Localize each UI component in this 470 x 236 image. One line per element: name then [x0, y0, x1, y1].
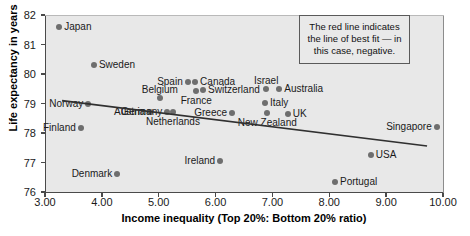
y-tick-label: 80: [8, 69, 36, 79]
y-tick-label: 78: [8, 128, 36, 138]
x-tick-label: 10.00: [429, 196, 457, 208]
y-tick-label: 79: [8, 99, 36, 109]
x-tick-mark: [101, 193, 103, 197]
x-tick-mark: [442, 193, 444, 197]
x-tick-mark: [385, 193, 387, 197]
x-tick-mark: [44, 193, 46, 197]
y-tick-label: 76: [8, 187, 36, 197]
x-axis-title: Income inequality (Top 20%: Bottom 20% r…: [45, 212, 443, 224]
x-tick-mark: [329, 193, 331, 197]
x-tick-label: 7.00: [262, 196, 283, 208]
y-tick-label: 81: [8, 40, 36, 50]
x-tick-label: 8.00: [319, 196, 340, 208]
plot-right-border: [443, 15, 444, 193]
x-tick-label: 9.00: [375, 196, 396, 208]
y-tick-label: 82: [8, 10, 36, 20]
x-tick-mark: [215, 193, 217, 197]
x-tick-label: 6.00: [205, 196, 226, 208]
x-tick-label: 3.00: [34, 196, 55, 208]
scatter-chart-figure: Life expectancy in years 76777879808182 …: [0, 0, 470, 236]
x-tick-mark: [158, 193, 160, 197]
y-tick-label: 77: [8, 158, 36, 168]
annotation-callout: The red line indicates the line of best …: [299, 15, 410, 64]
x-tick-label: 5.00: [148, 196, 169, 208]
x-tick-label: 4.00: [91, 196, 112, 208]
x-tick-mark: [272, 193, 274, 197]
